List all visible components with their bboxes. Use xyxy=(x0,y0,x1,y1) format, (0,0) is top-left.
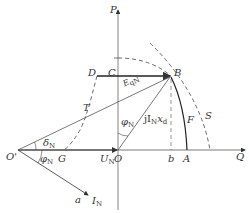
point-o-prime: O' xyxy=(6,152,17,162)
point-d: D xyxy=(88,68,96,78)
f-arc xyxy=(171,77,187,150)
phi-arc-o xyxy=(118,133,128,136)
phi-label-o: φN xyxy=(121,117,134,129)
s-arc xyxy=(150,43,210,150)
point-a-upper: A xyxy=(183,154,190,164)
q-axis-label: Q xyxy=(236,152,244,162)
phasor-diagram xyxy=(0,0,249,213)
point-b: B xyxy=(174,68,181,78)
in-label: IN xyxy=(92,196,102,208)
point-t: T xyxy=(83,103,90,113)
point-a-lower: a xyxy=(75,195,81,205)
point-o: O xyxy=(114,154,122,164)
p-axis-label: P xyxy=(110,5,117,15)
phi-label-oprime: φN xyxy=(40,154,53,166)
point-c: C xyxy=(108,68,116,78)
arc-top xyxy=(118,58,171,76)
delta-label: δN xyxy=(43,138,55,150)
point-b-lower: b xyxy=(168,154,174,164)
t-curve xyxy=(64,76,97,150)
point-g: G xyxy=(58,154,66,164)
jixd-label: jINxd xyxy=(144,114,167,126)
arc-label-s: S xyxy=(205,111,212,121)
un-label: UN xyxy=(100,154,115,166)
arc-label-f: F xyxy=(187,115,194,125)
delta-arc xyxy=(35,142,37,150)
